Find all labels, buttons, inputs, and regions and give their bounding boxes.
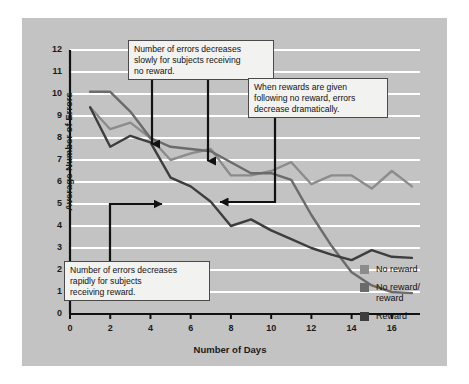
annotation-reward-line-3: receiving reward. [70,287,204,298]
y-tick-4: 4 [40,220,62,230]
x-tick-10: 10 [260,323,282,333]
legend-item-reward: Reward [360,311,450,322]
legend-label-reward: Reward [376,311,407,322]
y-axis-title: Average Number of Errors [63,82,74,222]
y-tick-2: 2 [40,264,62,274]
legend-label-no-reward: No reward [376,264,418,275]
annotation-no-reward-reward-line-1: When rewards are given [254,82,382,93]
annotation-no-reward-reward: When rewards are given following no rewa… [248,78,388,118]
y-tick-10: 10 [40,88,62,98]
y-tick-12: 12 [40,44,62,54]
annotation-no-reward: Number of errors decreases slowly for su… [128,40,274,80]
annotation-reward: Number of errors decreases rapidly for s… [64,261,210,301]
x-tick-4: 4 [139,323,161,333]
legend-label-no-reward-reward-line-1: No reward/ [376,282,420,292]
arrow-reward [110,204,162,261]
y-tick-6: 6 [40,176,62,186]
x-axis-title: Number of Days [130,344,330,355]
figure-root: 0123456789101112 0246810121416 Average N… [0,0,469,384]
legend-label-no-reward-reward-line-2: reward [376,293,404,303]
y-tick-1: 1 [40,286,62,296]
legend-item-no-reward-reward: No reward/ reward [360,282,450,304]
legend-item-no-reward: No reward [360,264,450,275]
annotation-no-reward-line-3: no reward. [134,66,268,77]
y-tick-0: 0 [40,308,62,318]
legend-label-no-reward-reward: No reward/ reward [376,282,420,304]
chart-panel: 0123456789101112 0246810121416 Average N… [22,18,447,366]
y-tick-3: 3 [40,242,62,252]
annotation-reward-line-1: Number of errors decreases [70,265,204,276]
annotation-no-reward-line-1: Number of errors decreases [134,44,268,55]
legend-swatch-reward [360,312,369,321]
y-tick-5: 5 [40,198,62,208]
legend-swatch-no-reward [360,265,369,274]
series-line-no-reward [90,107,412,188]
x-tick-12: 12 [300,323,322,333]
legend: No reward No reward/ reward Reward [360,264,450,329]
annotation-no-reward-line-2: slowly for subjects receiving [134,55,268,66]
x-tick-2: 2 [99,323,121,333]
arrow-no-reward-reward [220,114,275,202]
y-tick-9: 9 [40,110,62,120]
annotation-reward-line-2: rapidly for subjects [70,276,204,287]
x-tick-8: 8 [220,323,242,333]
x-tick-0: 0 [59,323,81,333]
y-tick-11: 11 [40,66,62,76]
y-tick-8: 8 [40,132,62,142]
legend-swatch-no-reward-reward [360,283,369,292]
annotation-no-reward-reward-line-3: decrease dramatically. [254,104,382,115]
y-tick-7: 7 [40,154,62,164]
x-tick-6: 6 [180,323,202,333]
annotation-no-reward-reward-line-2: following no reward, errors [254,93,382,104]
